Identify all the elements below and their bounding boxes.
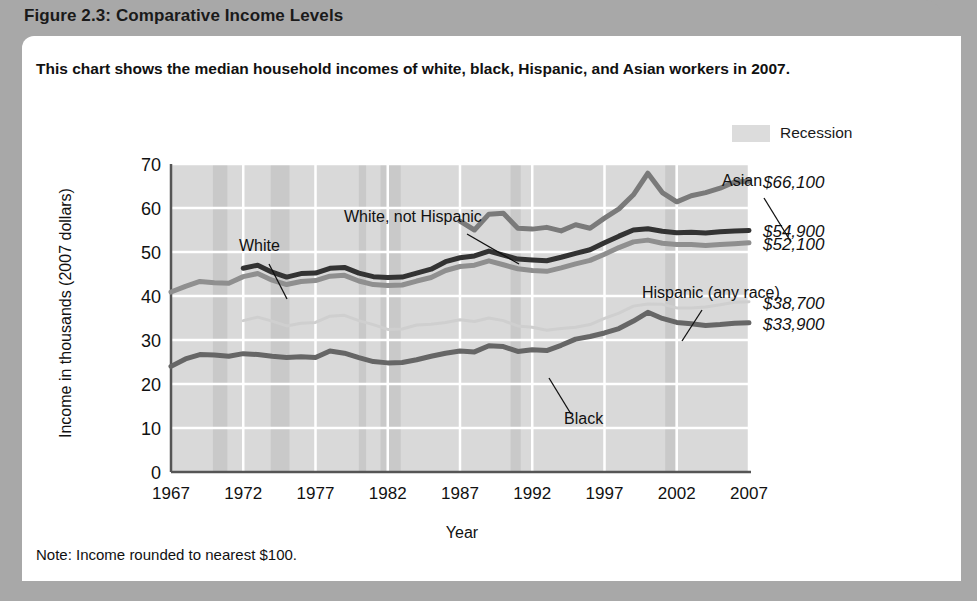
y-tick-label: 20 — [141, 375, 161, 395]
end-label-white: $52,100 — [762, 235, 825, 254]
x-tick-label: 1987 — [441, 484, 479, 503]
legend-label-recession: Recession — [780, 124, 852, 142]
series-annotation-white: White — [239, 237, 280, 254]
x-tick-label: 2007 — [730, 484, 768, 503]
x-tick-label: 1977 — [297, 484, 335, 503]
series-annotation-asian: Asian — [722, 172, 762, 189]
y-tick-label: 50 — [141, 243, 161, 263]
y-tick-label: 10 — [141, 419, 161, 439]
line-chart-svg: 0102030405060701967197219771982198719921… — [119, 156, 879, 576]
figure-subtitle: This chart shows the median household in… — [36, 56, 936, 81]
figure-note: Note: Income rounded to nearest $100. — [36, 546, 297, 563]
figure-card: This chart shows the median household in… — [22, 36, 961, 581]
x-tick-label: 1982 — [369, 484, 407, 503]
y-tick-label: 70 — [141, 156, 161, 175]
series-annotation-hispanic-any-race: Hispanic (any race) — [642, 284, 780, 301]
x-tick-label: 2002 — [658, 484, 696, 503]
x-tick-label: 1972 — [224, 484, 262, 503]
series-annotation-white-not-hispanic: White, not Hispanic — [344, 208, 482, 225]
x-tick-label: 1967 — [152, 484, 190, 503]
y-tick-label: 40 — [141, 287, 161, 307]
y-tick-label: 60 — [141, 199, 161, 219]
end-label-asian: $66,100 — [762, 173, 825, 192]
figure-title: Figure 2.3: Comparative Income Levels — [24, 6, 343, 26]
legend-swatch-recession — [732, 125, 770, 142]
recession-band-4 — [511, 164, 521, 472]
y-tick-label: 30 — [141, 331, 161, 351]
chart-legend: Recession — [732, 124, 852, 142]
y-axis-title: Income in thousands (2007 dollars) — [57, 163, 75, 463]
figure-container: Figure 2.3: Comparative Income Levels Th… — [0, 0, 977, 601]
recession-band-0 — [213, 164, 227, 472]
x-tick-label: 1992 — [513, 484, 551, 503]
y-tick-label: 0 — [151, 463, 161, 483]
plot-area: 0102030405060701967197219771982198719921… — [119, 156, 879, 464]
figure-card-inner: This chart shows the median household in… — [22, 36, 961, 581]
recession-band-1 — [271, 164, 290, 472]
end-label-black: $33,900 — [762, 315, 825, 334]
x-tick-label: 1997 — [586, 484, 624, 503]
